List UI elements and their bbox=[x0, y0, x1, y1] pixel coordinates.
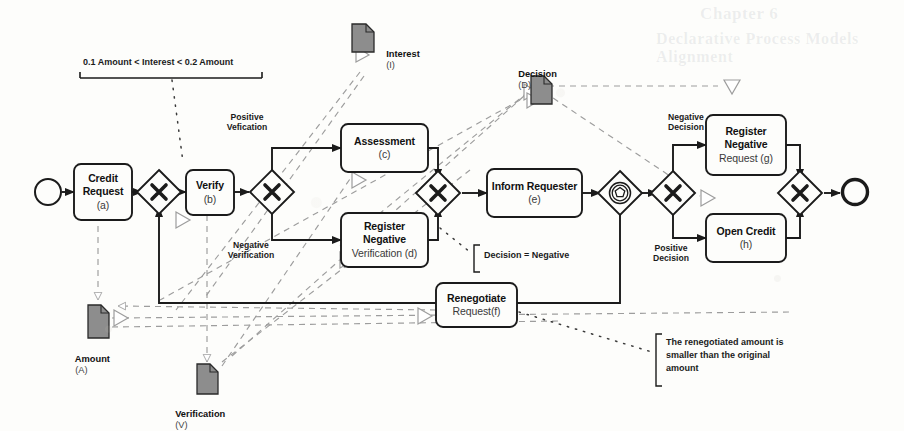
task-renegotiate-request: Renegotiate Request(f) bbox=[436, 283, 517, 327]
exclusive-gateway-verification-split bbox=[250, 170, 294, 214]
data-object-interest-code: (I) bbox=[386, 60, 395, 70]
task-rnv-line-1: Register bbox=[364, 220, 405, 233]
end-event bbox=[843, 180, 868, 205]
data-object-verification-shape bbox=[197, 364, 218, 394]
flow-label-positive-decision: PositiveDecision bbox=[640, 243, 702, 263]
task-register-negative-request: Register Negative Request (g) bbox=[706, 115, 786, 175]
task-verify: Verify (b) bbox=[186, 170, 234, 215]
task-rnr-line-2: Negative bbox=[725, 138, 768, 151]
data-object-verification-code: (V) bbox=[175, 420, 187, 430]
flow-label-negative-decision: NegativeDecision bbox=[655, 112, 717, 132]
task-assessment-line-1: Assessment bbox=[354, 135, 415, 148]
data-object-interest-name: Interest bbox=[386, 49, 420, 59]
data-object-verification-label: Verification (V) bbox=[170, 398, 225, 431]
leader-decision-negative bbox=[440, 228, 470, 252]
task-credit-request-line-1: Credit bbox=[88, 172, 118, 185]
data-object-interest-label: Interest (I) bbox=[381, 38, 420, 71]
flow-label-positive-verification: PositiveVefication bbox=[212, 112, 282, 132]
flow-label-negative-verification: NegativeVerification bbox=[212, 240, 290, 260]
start-event bbox=[35, 179, 61, 205]
annotation-interest-range-bracket bbox=[80, 72, 262, 78]
task-inform-requester: Inform Requester (e) bbox=[487, 169, 582, 217]
exclusive-gateway-final-merge bbox=[778, 171, 822, 215]
data-object-verification-name: Verification bbox=[175, 409, 225, 419]
task-open-credit: Open Credit (h) bbox=[706, 214, 786, 262]
task-rnv-code: Verification (d) bbox=[352, 247, 418, 260]
task-rnr-code: Request (g) bbox=[719, 152, 773, 165]
data-object-amount-label: Amount (A) bbox=[70, 343, 110, 376]
data-object-decision-name: Decision bbox=[518, 69, 557, 79]
leader-interest-range bbox=[172, 80, 183, 162]
task-inform-requester-code: (e) bbox=[528, 193, 541, 206]
task-assessment-code: (c) bbox=[379, 148, 391, 161]
task-renegotiate-code: Request(f) bbox=[452, 305, 500, 318]
task-rnr-line-1: Register bbox=[725, 125, 766, 138]
task-renegotiate-line-1: Renegotiate bbox=[447, 292, 506, 305]
task-rnv-line-2: Negative bbox=[363, 233, 406, 246]
annotation-renegotiated-bracket bbox=[656, 334, 662, 386]
task-credit-request-code: (a) bbox=[97, 199, 110, 212]
data-object-amount-code: (A) bbox=[75, 365, 87, 375]
data-object-amount-shape bbox=[88, 305, 109, 338]
task-open-credit-line-1: Open Credit bbox=[717, 225, 776, 238]
task-assessment: Assessment (c) bbox=[341, 124, 428, 172]
data-object-decision-code: (D) bbox=[518, 80, 531, 90]
event-based-gateway-decision-wait bbox=[598, 171, 642, 215]
task-inform-requester-line-1: Inform Requester bbox=[492, 180, 577, 193]
data-object-decision-label: Decision (D) bbox=[513, 58, 557, 91]
data-object-interest-shape bbox=[352, 24, 374, 52]
exclusive-gateway-merge-request bbox=[137, 170, 181, 214]
task-verify-line-1: Verify bbox=[196, 179, 224, 192]
annotation-decision-negative: Decision = Negative bbox=[484, 250, 569, 261]
data-object-amount-name: Amount bbox=[75, 354, 110, 364]
task-credit-request: Credit Request (a) bbox=[74, 164, 132, 220]
task-credit-request-line-2: Request bbox=[83, 185, 124, 198]
task-open-credit-code: (h) bbox=[740, 238, 753, 251]
leader-renegotiated bbox=[519, 312, 652, 352]
annotation-interest-range: 0.1 Amount < Interest < 0.2 Amount bbox=[83, 57, 233, 68]
exclusive-gateway-decision-split bbox=[651, 171, 695, 215]
annotation-decision-negative-bracket bbox=[474, 245, 480, 272]
task-verify-code: (b) bbox=[204, 193, 217, 206]
task-register-negative-verification: Register Negative Verification (d) bbox=[341, 213, 428, 267]
annotation-renegotiated-amount: The renegotiated amount issmaller than t… bbox=[666, 336, 816, 375]
